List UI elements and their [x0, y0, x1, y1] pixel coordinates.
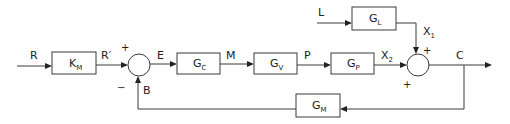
- summing-junction-2: [407, 54, 429, 76]
- signal-label-m: M: [226, 49, 236, 62]
- sum2-left-plus-sign: +: [403, 79, 411, 90]
- signal-label-r: R: [30, 49, 38, 62]
- arrow-m: [247, 61, 254, 67]
- signal-label-x2: X2: [381, 49, 393, 64]
- summing-junction-1: [128, 54, 150, 76]
- arrow-feedback-gm: [340, 106, 347, 112]
- arrow-c: [485, 62, 492, 68]
- arrow-x2: [400, 62, 407, 68]
- signal-label-x1: X1: [423, 25, 435, 40]
- signal-line-x1: [396, 23, 416, 52]
- signal-label-r-prime: R′: [101, 49, 112, 62]
- arrow-r-prime: [121, 62, 128, 68]
- signal-label-e: E: [157, 49, 164, 62]
- block-diagram: R KM R′ + − E GC M GV P GP X2 + + L GL X…: [0, 0, 510, 124]
- arrow-r: [45, 63, 52, 69]
- arrow-x1: [413, 47, 419, 54]
- signal-label-p: P: [304, 49, 311, 62]
- signal-label-b: B: [143, 84, 151, 97]
- signal-label-l: L: [318, 6, 325, 19]
- sum1-plus-sign: +: [121, 42, 129, 53]
- sum2-top-plus-sign: +: [423, 45, 431, 56]
- signal-label-c: C: [456, 49, 464, 62]
- arrow-l: [345, 20, 352, 26]
- arrow-b: [135, 76, 141, 83]
- arrow-p: [324, 62, 331, 68]
- arrow-e: [170, 61, 177, 67]
- feedback-line-b: [138, 78, 296, 109]
- sum1-minus-sign: −: [117, 82, 125, 93]
